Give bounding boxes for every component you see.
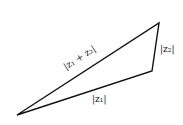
triangle-diagram: |z₁ + z₂| |z₁| |z₂| [0,0,183,125]
label-z1: |z₁| [92,94,106,105]
label-z2: |z₂| [160,44,174,55]
triangle [17,23,159,115]
label-hyp: |z₁ + z₂| [62,44,98,73]
